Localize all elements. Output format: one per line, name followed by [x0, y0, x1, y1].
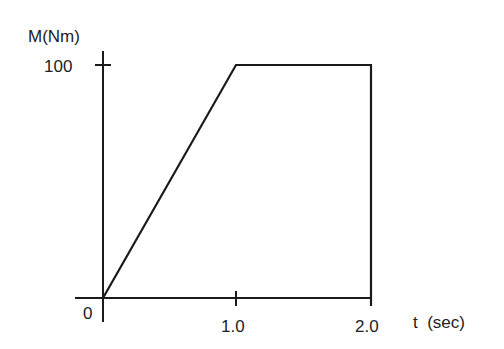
x-tick-label-1: 1.0 [221, 317, 245, 336]
x-axis-label: t (sec) [413, 313, 465, 332]
x-tick-label-2: 2.0 [355, 317, 379, 336]
moment-curve [103, 65, 371, 306]
origin-label: 0 [83, 304, 92, 323]
y-tick-label-100: 100 [44, 57, 72, 76]
moment-time-chart: M(Nm) 100 0 1.0 2.0 t (sec) [0, 0, 504, 349]
y-axis-label: M(Nm) [28, 27, 80, 46]
